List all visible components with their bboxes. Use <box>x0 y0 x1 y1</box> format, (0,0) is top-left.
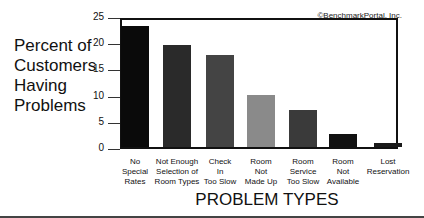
bar <box>329 134 357 147</box>
bar <box>247 95 275 147</box>
y-tick <box>108 149 120 150</box>
y-tick-label: 20 <box>84 37 104 48</box>
bottom-divider <box>0 216 424 218</box>
y-tick <box>108 70 120 71</box>
bar <box>374 143 402 147</box>
y-tick <box>108 44 120 45</box>
y-tick-label: 10 <box>84 90 104 101</box>
bar <box>206 55 234 147</box>
plot-area <box>120 18 398 149</box>
y-tick-label: 25 <box>84 11 104 22</box>
y-tick-label: 15 <box>84 63 104 74</box>
bar <box>163 45 191 147</box>
y-tick-label: 0 <box>84 142 104 153</box>
y-tick <box>108 18 120 19</box>
bar <box>289 110 317 147</box>
bar <box>121 26 149 147</box>
y-tick <box>108 97 120 98</box>
x-axis-title: PROBLEM TYPES <box>0 190 424 210</box>
y-tick-label: 5 <box>84 116 104 127</box>
y-tick <box>108 123 120 124</box>
x-category-label: LostReservation <box>358 157 418 177</box>
